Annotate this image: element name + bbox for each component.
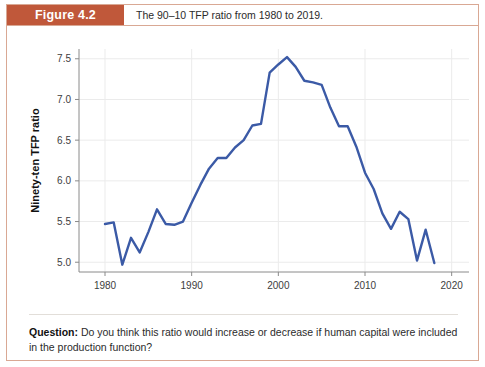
line-chart: 5.05.56.06.57.07.5 19801990200020102020 …: [7, 26, 478, 298]
figure-number-badge: Figure 4.2: [7, 5, 124, 25]
figure-header: Figure 4.2 The 90–10 TFP ratio from 1980…: [7, 5, 478, 26]
y-tick-label: 7.0: [57, 94, 71, 105]
x-axis-ticks: 19801990200020102020: [94, 272, 463, 291]
x-tick-label: 1980: [94, 280, 117, 291]
question-block: Question: Do you think this ratio would …: [29, 325, 461, 355]
grid-lines: [79, 49, 469, 272]
y-axis-title: Ninety-ten TFP ratio: [29, 108, 41, 213]
question-text: Do you think this ratio would increase o…: [29, 326, 457, 353]
y-tick-label: 6.0: [57, 175, 71, 186]
y-tick-label: 7.5: [57, 53, 71, 64]
x-tick-label: 1990: [181, 280, 204, 291]
question-label: Question:: [29, 326, 78, 338]
question-divider: [29, 314, 458, 315]
figure-card: Figure 4.2 The 90–10 TFP ratio from 1980…: [6, 4, 479, 361]
y-tick-label: 6.5: [57, 135, 71, 146]
y-tick-label: 5.0: [57, 257, 71, 268]
chart-plot-region: 5.05.56.06.57.07.5 19801990200020102020 …: [7, 26, 478, 298]
figure-number-label: Figure 4.2: [35, 8, 96, 22]
data-series-line: [105, 57, 434, 265]
x-tick-label: 2010: [354, 280, 377, 291]
y-axis-ticks: 5.05.56.06.57.07.5: [57, 53, 79, 267]
x-tick-label: 2020: [441, 280, 464, 291]
x-tick-label: 2000: [267, 280, 290, 291]
figure-caption: The 90–10 TFP ratio from 1980 to 2019.: [136, 5, 323, 25]
y-tick-label: 5.5: [57, 216, 71, 227]
